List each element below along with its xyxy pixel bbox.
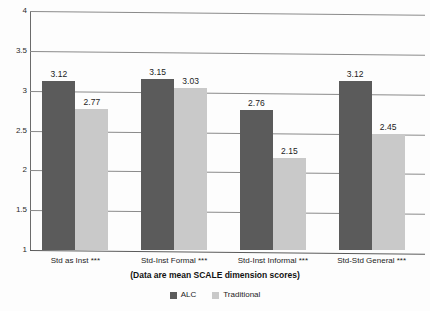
bar-traditional-0 <box>75 109 108 250</box>
bar-traditional-1 <box>174 88 207 250</box>
y-tick-label: 2.5 <box>3 127 27 135</box>
bar-value-label: 3.12 <box>51 70 68 79</box>
bar-value-label: 3.03 <box>182 77 199 86</box>
bar-alc-3 <box>339 81 372 250</box>
plot-area: 3.122.773.153.032.762.153.122.45 <box>30 11 425 250</box>
bar-traditional-2 <box>273 158 306 250</box>
legend-label: Traditional <box>223 291 260 299</box>
y-axis-tick-labels: 43.532.521.51 <box>0 0 27 311</box>
x-axis-label-2: Std-Inst Informal *** <box>238 256 308 265</box>
legend-label: ALC <box>181 291 197 299</box>
bar-chart: 43.532.521.51 3.122.773.153.032.762.153.… <box>0 0 430 311</box>
bar-value-label: 2.15 <box>281 147 298 156</box>
y-tick-label: 1 <box>3 246 27 254</box>
x-axis-label-0: Std as Inst *** <box>51 256 100 265</box>
y-tick-label: 4 <box>3 7 27 15</box>
bar-value-label: 3.15 <box>149 68 166 77</box>
y-tick-label: 1.5 <box>3 206 27 214</box>
legend-item-traditional: Traditional <box>212 291 260 299</box>
y-tick-label: 3.5 <box>3 47 27 55</box>
y-tick-label: 2 <box>3 166 27 174</box>
bar-traditional-3 <box>372 134 405 250</box>
legend-swatch-icon <box>170 292 177 299</box>
legend-item-alc: ALC <box>170 291 197 299</box>
y-tick-label: 3 <box>3 87 27 95</box>
chart-legend: ALCTraditional <box>0 291 430 299</box>
bar-value-label: 3.12 <box>347 70 364 79</box>
x-axis-label-3: Std-Std General *** <box>337 256 406 265</box>
x-axis-label-1: Std-Inst Formal *** <box>141 256 207 265</box>
legend-swatch-icon <box>212 292 219 299</box>
bar-alc-1 <box>141 79 174 250</box>
bar-alc-2 <box>240 110 273 250</box>
bar-value-label: 2.77 <box>84 98 101 107</box>
gridline-1 <box>30 250 425 255</box>
gridline-4 <box>30 11 425 16</box>
bar-alc-0 <box>42 81 75 250</box>
bar-value-label: 2.45 <box>380 123 397 132</box>
gridline-3.5 <box>30 51 425 56</box>
chart-subtitle: (Data are mean SCALE dimension scores) <box>0 270 430 280</box>
bar-value-label: 2.76 <box>248 99 265 108</box>
